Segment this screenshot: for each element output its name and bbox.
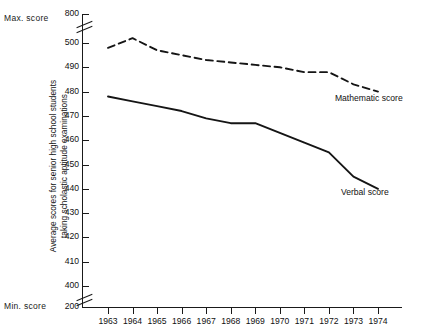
y-tick-label-500: 500 bbox=[65, 37, 79, 47]
y-tick-label-490: 490 bbox=[65, 61, 79, 71]
y-tick-label-440: 440 bbox=[65, 183, 79, 193]
y-tick-label-400: 400 bbox=[65, 280, 79, 290]
x-tick-1966 bbox=[182, 308, 183, 314]
x-tick-1971 bbox=[304, 308, 305, 314]
x-tick-label-1966: 1966 bbox=[172, 316, 191, 326]
series-line-verbal-score bbox=[108, 96, 378, 188]
x-tick-label-1967: 1967 bbox=[197, 316, 216, 326]
series-plot bbox=[82, 14, 402, 308]
y-tick-label-420: 420 bbox=[65, 231, 79, 241]
x-tick-1964 bbox=[133, 308, 134, 314]
series-label-mathematic-score: Mathematic score bbox=[335, 93, 403, 103]
y-tick-label-430: 430 bbox=[65, 207, 79, 217]
x-tick-label-1971: 1971 bbox=[295, 316, 314, 326]
plot-area: 800500490480470460450440430420410400200 … bbox=[82, 14, 402, 308]
x-tick-label-1974: 1974 bbox=[368, 316, 387, 326]
y-tick-label-480: 480 bbox=[65, 86, 79, 96]
x-tick-label-1965: 1965 bbox=[148, 316, 167, 326]
max-score-label: Max. score bbox=[4, 13, 49, 23]
x-tick-1974 bbox=[378, 308, 379, 314]
x-tick-1970 bbox=[280, 308, 281, 314]
x-tick-1963 bbox=[108, 308, 109, 314]
y-axis-title-line-1: Average scores for senior high school st… bbox=[48, 41, 59, 291]
x-tick-1967 bbox=[206, 308, 207, 314]
chart-page: Max. score Min. score Average scores for… bbox=[0, 0, 423, 329]
x-tick-label-1973: 1973 bbox=[344, 316, 363, 326]
x-tick-label-1970: 1970 bbox=[270, 316, 289, 326]
min-score-label: Min. score bbox=[4, 301, 46, 311]
y-tick-label-460: 460 bbox=[65, 134, 79, 144]
y-tick-label-410: 410 bbox=[65, 256, 79, 266]
x-tick-label-1963: 1963 bbox=[98, 316, 117, 326]
x-tick-label-1968: 1968 bbox=[221, 316, 240, 326]
series-line-mathematic-score bbox=[108, 38, 378, 91]
x-tick-label-1969: 1969 bbox=[246, 316, 265, 326]
x-tick-1969 bbox=[255, 308, 256, 314]
x-tick-label-1972: 1972 bbox=[319, 316, 338, 326]
x-tick-1973 bbox=[353, 308, 354, 314]
x-tick-1965 bbox=[157, 308, 158, 314]
y-tick-label-470: 470 bbox=[65, 110, 79, 120]
x-tick-1968 bbox=[231, 308, 232, 314]
y-tick-label-450: 450 bbox=[65, 159, 79, 169]
x-tick-label-1964: 1964 bbox=[123, 316, 142, 326]
y-tick-label-800: 800 bbox=[65, 8, 79, 18]
x-tick-1972 bbox=[329, 308, 330, 314]
series-label-verbal-score: Verbal score bbox=[341, 187, 389, 197]
